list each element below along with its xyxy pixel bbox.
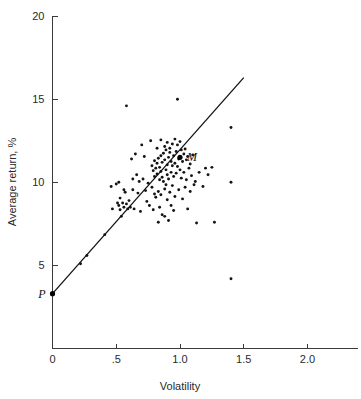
data-point — [198, 171, 201, 174]
data-point — [230, 277, 233, 280]
data-point — [149, 139, 152, 142]
data-point — [207, 173, 210, 176]
data-point — [173, 162, 176, 165]
data-point — [154, 167, 157, 170]
axis-lines — [53, 16, 359, 349]
annotated-point-p — [50, 291, 55, 296]
point-annotations: PM — [37, 150, 198, 300]
x-tick-label: 1.5 — [236, 353, 251, 365]
data-point — [165, 168, 168, 171]
data-point — [158, 166, 161, 169]
data-point — [128, 199, 131, 202]
data-point — [167, 219, 170, 222]
data-point — [119, 208, 122, 211]
data-point — [175, 172, 178, 175]
data-point — [151, 164, 154, 167]
data-point — [148, 204, 151, 207]
data-point — [185, 178, 188, 181]
data-point — [230, 126, 233, 129]
data-point — [202, 185, 205, 188]
data-point — [133, 207, 136, 210]
data-point — [167, 156, 170, 159]
data-point — [179, 140, 182, 143]
data-point — [158, 206, 161, 209]
data-point — [163, 158, 166, 161]
y-tick-label: 15 — [32, 93, 44, 105]
data-point — [122, 188, 125, 191]
data-point — [151, 186, 154, 189]
x-tick-label: 1.0 — [172, 353, 187, 365]
scatter-plot-figure: 0.51.01.52.0 5101520 PM Volatility Avera… — [0, 0, 361, 399]
x-tick-label: 2.0 — [300, 353, 315, 365]
data-point — [142, 178, 145, 181]
data-point — [152, 169, 155, 172]
data-point — [111, 207, 114, 210]
data-point — [182, 171, 185, 174]
data-point — [172, 175, 175, 178]
data-point — [159, 193, 162, 196]
data-points — [79, 98, 232, 280]
axes — [53, 16, 359, 349]
data-point — [230, 181, 233, 184]
data-point — [161, 161, 164, 164]
data-point — [161, 213, 164, 216]
data-point — [162, 152, 165, 155]
data-point — [159, 154, 162, 157]
data-point — [163, 215, 166, 218]
data-point — [122, 206, 125, 209]
data-point — [165, 148, 168, 151]
data-point — [171, 164, 174, 167]
annotation-label-m: M — [186, 150, 198, 164]
data-point — [193, 183, 196, 186]
data-point — [161, 176, 164, 179]
data-point — [189, 190, 192, 193]
data-point — [143, 155, 146, 158]
data-point — [125, 202, 128, 205]
data-point — [152, 208, 155, 211]
data-point — [176, 143, 179, 146]
annotation-label-p: P — [37, 287, 46, 301]
y-tick-label: 10 — [32, 176, 44, 188]
data-point — [158, 178, 161, 181]
data-point — [157, 190, 160, 193]
data-point — [131, 178, 134, 181]
data-point — [179, 168, 182, 171]
data-point — [117, 181, 120, 184]
data-point — [171, 143, 174, 146]
data-point — [163, 145, 166, 148]
data-point — [173, 138, 176, 141]
data-point — [204, 167, 207, 170]
data-point — [170, 204, 173, 207]
data-point — [213, 221, 216, 224]
data-point — [177, 188, 180, 191]
data-point — [140, 143, 143, 146]
data-point — [173, 195, 176, 198]
data-point — [153, 159, 156, 162]
data-point — [131, 188, 134, 191]
data-point — [194, 180, 197, 183]
x-tick-label: 0 — [49, 353, 55, 365]
data-point — [157, 221, 160, 224]
data-point — [180, 177, 183, 180]
data-point — [176, 98, 179, 101]
data-point — [167, 178, 170, 181]
data-point — [159, 138, 162, 141]
data-point — [157, 157, 160, 160]
data-point — [121, 202, 124, 205]
data-point — [168, 191, 171, 194]
data-point — [135, 173, 138, 176]
data-point — [136, 192, 139, 195]
y-axis-title: Average return, % — [6, 138, 18, 227]
data-point — [119, 197, 122, 200]
x-tick-label: .5 — [112, 353, 121, 365]
data-point — [139, 210, 142, 213]
data-point — [190, 174, 193, 177]
data-point — [166, 173, 169, 176]
data-point — [162, 180, 165, 183]
data-point — [117, 204, 120, 207]
fit-line — [53, 78, 244, 294]
data-point — [124, 191, 127, 194]
data-point — [182, 153, 185, 156]
data-point — [154, 196, 157, 199]
data-point — [181, 197, 184, 200]
